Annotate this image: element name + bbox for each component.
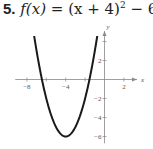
y-tick-label: 2 bbox=[98, 57, 102, 65]
ticks: −8−42−6−4−22 bbox=[23, 42, 126, 142]
x-axis-arrow bbox=[132, 78, 137, 82]
x-axis-label: x bbox=[140, 76, 145, 84]
y-axis-arrow bbox=[103, 31, 107, 36]
y-tick-label: −6 bbox=[94, 133, 102, 141]
x-tick-label: 2 bbox=[122, 83, 126, 91]
function-graph: xy −8−42−6−4−22 bbox=[0, 0, 153, 149]
y-tick-label: −4 bbox=[94, 114, 102, 122]
x-tick-label: −8 bbox=[23, 83, 31, 91]
y-axis-label: y bbox=[106, 23, 111, 31]
y-tick-label: −2 bbox=[94, 95, 102, 103]
x-tick-label: −4 bbox=[62, 83, 70, 91]
